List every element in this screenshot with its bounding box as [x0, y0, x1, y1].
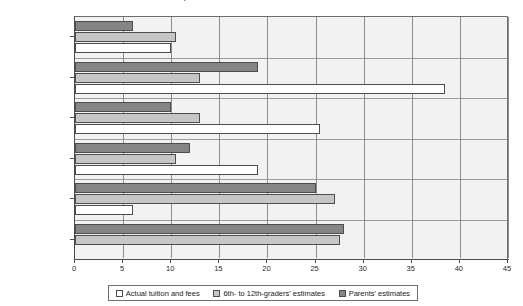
gridline	[364, 17, 365, 258]
category-separator	[75, 58, 507, 59]
gridline	[508, 17, 509, 258]
legend-swatch-icon	[116, 290, 123, 297]
bar	[75, 62, 258, 72]
gridline	[316, 17, 317, 258]
x-tick-mark	[218, 259, 219, 263]
legend-swatch-icon	[213, 290, 220, 297]
category-separator	[75, 139, 507, 140]
bar	[75, 143, 190, 153]
x-tick-label: 0	[72, 264, 76, 273]
bar	[75, 113, 200, 123]
legend-item-label: 6th- to 12th-graders' estimates	[223, 289, 324, 298]
y-tick-mark	[70, 158, 74, 159]
chart-legend: Actual tuition and fees6th- to 12th-grad…	[108, 285, 418, 301]
legend-item-label: Actual tuition and fees	[126, 289, 200, 298]
x-tick-label: 15	[214, 264, 222, 273]
gridline	[171, 17, 172, 258]
bar	[75, 102, 171, 112]
y-tick-mark	[70, 198, 74, 199]
y-tick-mark	[70, 239, 74, 240]
x-tick-mark	[170, 259, 171, 263]
legend-item[interactable]: Actual tuition and fees	[116, 289, 200, 298]
plot-area	[74, 16, 508, 259]
bar	[75, 43, 171, 53]
x-tick-mark	[315, 259, 316, 263]
legend-item[interactable]: 6th- to 12th-graders' estimates	[213, 289, 324, 298]
category-separator	[75, 98, 507, 99]
y-tick-mark	[70, 77, 74, 78]
bar	[75, 235, 340, 245]
x-tick-mark	[74, 259, 75, 263]
x-tick-mark	[122, 259, 123, 263]
x-tick-mark	[266, 259, 267, 263]
bar-chart: by Actual Tuition Cost and Parent/Studen…	[0, 0, 523, 306]
x-tick-mark	[411, 259, 412, 263]
bar	[75, 21, 133, 31]
x-tick-label: 40	[455, 264, 463, 273]
bar	[75, 183, 316, 193]
category-separator	[75, 179, 507, 180]
x-tick-label: 25	[310, 264, 318, 273]
x-tick-label: 30	[358, 264, 366, 273]
gridline	[267, 17, 268, 258]
bar	[75, 73, 200, 83]
legend-item[interactable]: Parents' estimates	[339, 289, 410, 298]
legend-swatch-icon	[339, 290, 346, 297]
y-axis-line	[74, 16, 75, 259]
x-tick-mark	[363, 259, 364, 263]
gridline	[460, 17, 461, 258]
bar	[75, 32, 176, 42]
bar	[75, 194, 335, 204]
x-tick-mark	[507, 259, 508, 263]
category-separator	[75, 220, 507, 221]
x-tick-label: 45	[503, 264, 511, 273]
x-tick-label: 5	[120, 264, 124, 273]
x-tick-mark	[459, 259, 460, 263]
bar	[75, 154, 176, 164]
x-tick-label: 10	[166, 264, 174, 273]
bar	[75, 124, 320, 134]
bar	[75, 165, 258, 175]
chart-title: by Actual Tuition Cost and Parent/Studen…	[0, 0, 523, 1]
bar	[75, 205, 133, 215]
legend-item-label: Parents' estimates	[349, 289, 410, 298]
gridline	[412, 17, 413, 258]
y-tick-mark	[70, 36, 74, 37]
bar	[75, 224, 344, 234]
x-axis-line	[74, 259, 509, 260]
y-tick-mark	[70, 117, 74, 118]
x-tick-label: 35	[407, 264, 415, 273]
plot-inner	[75, 17, 507, 258]
x-tick-label: 20	[262, 264, 270, 273]
gridline	[219, 17, 220, 258]
bar	[75, 84, 445, 94]
